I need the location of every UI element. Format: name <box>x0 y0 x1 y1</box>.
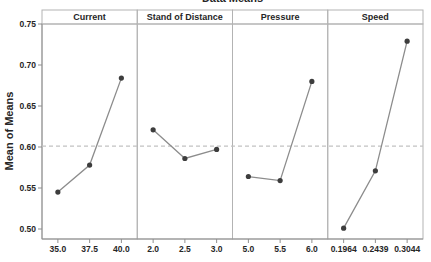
y-tick-label: 0.70 <box>19 60 36 70</box>
x-tick-label: 2.0 <box>147 244 159 254</box>
y-tick-label: 0.55 <box>19 183 36 193</box>
data-point <box>278 178 283 183</box>
data-point <box>151 127 156 132</box>
x-tick-label: 5.0 <box>242 244 254 254</box>
panel-header-label: Pressure <box>261 12 300 22</box>
data-point <box>405 39 410 44</box>
series-line <box>153 130 217 159</box>
data-point <box>309 79 314 84</box>
x-tick-label: 0.2439 <box>362 244 388 254</box>
data-point <box>373 168 378 173</box>
data-point <box>119 76 124 81</box>
chart-title: Data Means <box>42 0 423 4</box>
y-tick-label: 0.65 <box>19 101 36 111</box>
series-line <box>248 81 312 180</box>
main-effects-plot: Data Means Mean of Means CurrentStand of… <box>0 0 431 262</box>
data-point <box>55 190 60 195</box>
data-point <box>246 174 251 179</box>
x-tick-label: 37.5 <box>81 244 98 254</box>
data-point <box>87 162 92 167</box>
x-tick-label: 40.0 <box>113 244 130 254</box>
panel-header-label: Stand of Distance <box>147 12 223 22</box>
x-tick-label: 5.5 <box>274 244 286 254</box>
x-tick-label: 0.3044 <box>394 244 420 254</box>
x-tick-label: 0.1964 <box>331 244 357 254</box>
y-axis-label: Mean of Means <box>3 71 15 191</box>
plot-area: CurrentStand of DistancePressureSpeed0.5… <box>0 0 431 262</box>
x-tick-label: 3.0 <box>211 244 223 254</box>
data-point <box>214 147 219 152</box>
panel-box <box>328 24 423 239</box>
x-tick-label: 35.0 <box>50 244 67 254</box>
x-tick-label: 2.5 <box>179 244 191 254</box>
series-line <box>58 78 122 192</box>
data-point <box>341 226 346 231</box>
series-line <box>344 41 408 228</box>
x-tick-label: 6.0 <box>306 244 318 254</box>
data-point <box>182 156 187 161</box>
panel-box <box>233 24 328 239</box>
y-tick-label: 0.50 <box>19 224 36 234</box>
panel-header-label: Speed <box>362 12 389 22</box>
panel-box <box>42 24 137 239</box>
y-tick-label: 0.75 <box>19 19 36 29</box>
y-tick-label: 0.60 <box>19 142 36 152</box>
panel-header-label: Current <box>73 12 106 22</box>
